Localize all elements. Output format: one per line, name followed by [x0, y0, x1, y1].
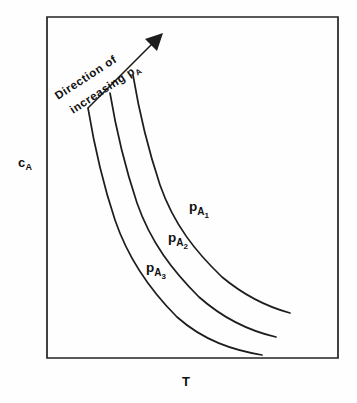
curve-label-pa3-sub2: 3: [161, 272, 166, 281]
y-axis-label-subscript: A: [26, 162, 33, 172]
curve-label-pa3: pA3: [146, 260, 166, 281]
curve-label-pa2-sub: A: [176, 237, 183, 248]
curve-label-pa2: pA2: [168, 230, 188, 251]
curve-pa2: [110, 93, 276, 337]
curve-label-pa3-sub: A: [154, 267, 161, 278]
plot-svg: Direction of increasing pA cA T pA1 pA2 …: [0, 0, 357, 403]
x-axis-label: T: [182, 374, 190, 389]
y-axis-label-main: c: [18, 155, 26, 170]
curve-label-pa1-sub2: 1: [204, 211, 209, 220]
curve-label-pa1-sub: A: [197, 206, 204, 217]
curve-label-pa3-main: p: [146, 260, 154, 275]
curve-label-pa2-main: p: [168, 230, 176, 245]
curve-label-pa2-sub2: 2: [183, 242, 188, 251]
curve-label-pa1: pA1: [189, 199, 209, 220]
curve-label-pa1-main: p: [189, 199, 197, 214]
y-axis-label: cA: [18, 155, 33, 172]
figure-container: Direction of increasing pA cA T pA1 pA2 …: [0, 0, 357, 403]
